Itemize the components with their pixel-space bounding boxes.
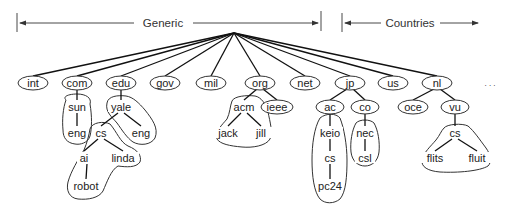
node-pc24: pc24 — [317, 180, 343, 192]
node-fluit: fluit — [461, 152, 493, 164]
node-label: yale — [111, 101, 131, 113]
node-label: cs — [325, 152, 337, 164]
node-comeng: eng — [67, 127, 87, 139]
edge-org-ieee — [263, 89, 277, 100]
node-ac: ac — [316, 100, 344, 114]
node-label: ieee — [267, 101, 288, 113]
node-ai: ai — [77, 152, 91, 164]
node-jill: jill — [248, 127, 274, 139]
edge-jp-co — [353, 89, 365, 100]
node-label: cs — [450, 127, 462, 139]
node-label: co — [359, 101, 371, 113]
node-label: keio — [320, 127, 340, 139]
node-label: edu — [112, 77, 130, 89]
node-jack: jack — [215, 127, 241, 139]
edge-root-us — [234, 33, 393, 76]
node-label: fluit — [468, 152, 485, 164]
node-yaleeng: eng — [131, 127, 151, 139]
node-label: linda — [111, 152, 135, 164]
node-jp: jp — [335, 76, 365, 90]
node-sun: sun — [67, 101, 87, 113]
node-label: acm — [234, 101, 255, 113]
edge-root-gov — [165, 33, 234, 76]
node-vu: vu — [441, 100, 469, 114]
node-label: ac — [324, 101, 336, 113]
node-vucs: cs — [448, 127, 462, 139]
node-net: net — [290, 76, 320, 90]
node-flits: flits — [419, 152, 451, 164]
edge-org-acm — [244, 89, 257, 100]
node-acm: acm — [234, 101, 255, 113]
node-label: cs — [96, 127, 108, 139]
node-label: com — [67, 77, 88, 89]
node-co: co — [351, 100, 379, 114]
node-org: org — [245, 76, 275, 90]
edge-nl-oce — [413, 89, 434, 100]
node-yalecs: cs — [94, 127, 108, 139]
node-label: jp — [345, 77, 355, 89]
node-oce: oce — [398, 100, 428, 114]
edge-root-net — [234, 33, 305, 76]
node-label: nec — [356, 127, 374, 139]
node-label: flits — [427, 152, 444, 164]
edge-vucs-fluit — [458, 139, 477, 151]
node-label: oce — [404, 101, 422, 113]
node-com: com — [62, 76, 92, 90]
node-label: sun — [68, 101, 86, 113]
node-label: eng — [132, 127, 150, 139]
edge-jp-ac — [330, 89, 347, 100]
node-nl: nl — [422, 76, 452, 90]
node-label: pc24 — [318, 180, 342, 192]
edge-root-int — [33, 33, 234, 76]
node-keio: keio — [317, 127, 343, 139]
node-nec: nec — [355, 127, 375, 139]
node-ieee: ieee — [261, 100, 293, 114]
node-label: eng — [68, 127, 86, 139]
node-csl: csl — [355, 152, 375, 164]
node-yale: yale — [108, 101, 134, 113]
node-label: ai — [80, 152, 89, 164]
node-label: vu — [449, 101, 461, 113]
countries-range-bar: Countries — [342, 13, 478, 32]
node-label: gov — [156, 77, 174, 89]
node-label: robot — [73, 180, 98, 192]
edge-vucs-flits — [435, 139, 452, 151]
node-label: mil — [204, 77, 218, 89]
edge-acm-jack — [228, 113, 241, 126]
node-jpcs: cs — [323, 152, 337, 164]
node-us: us — [378, 76, 408, 90]
node-label: net — [297, 77, 312, 89]
node-robot: robot — [70, 180, 102, 192]
edge-root-edu — [121, 33, 234, 76]
node-mil: mil — [196, 76, 226, 90]
node-int: int — [18, 76, 48, 90]
edge-nl-vu — [440, 89, 455, 100]
node-label: int — [27, 77, 39, 89]
node-label: nl — [433, 77, 442, 89]
edge-yale-yaleeng — [124, 113, 141, 126]
dns-name-space-diagram: Generic Countries intcomedugovmilorgnetj… — [0, 0, 505, 214]
edge-root-nl — [234, 33, 437, 76]
edge-root-com — [77, 33, 234, 76]
node-gov: gov — [150, 76, 180, 90]
edge-acm-jill — [247, 113, 261, 126]
diagram-canvas: Generic Countries intcomedugovmilorgnetj… — [0, 0, 505, 214]
countries-label: Countries — [385, 17, 434, 29]
edge-yalecs-linda — [104, 139, 123, 151]
more-countries-ellipsis: . . . — [484, 79, 495, 88]
node-label: csl — [358, 152, 371, 164]
generic-range-bar: Generic — [17, 11, 321, 32]
node-label: jack — [217, 127, 238, 139]
generic-label: Generic — [143, 17, 184, 29]
node-linda: linda — [107, 152, 139, 164]
edge-ai-robot — [86, 164, 87, 179]
node-edu: edu — [106, 76, 136, 90]
node-label: us — [387, 77, 399, 89]
node-label: org — [252, 77, 268, 89]
node-label: jill — [255, 127, 266, 139]
